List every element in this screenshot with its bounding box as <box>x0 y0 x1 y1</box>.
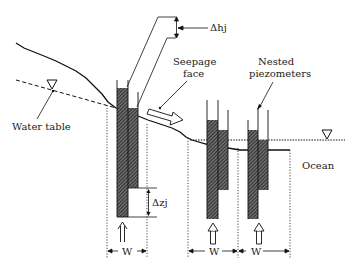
ocean-label: Ocean <box>302 160 335 171</box>
piezometer-1b-water <box>128 108 138 188</box>
width-label-3: W <box>251 246 262 257</box>
piezometer-set-3 <box>248 108 268 244</box>
water-table-label: Water table <box>12 121 71 132</box>
piezometer-3a-water <box>248 130 258 219</box>
nested-piezometers-label-line1: Nested <box>258 56 295 67</box>
piezometer-2b-water <box>218 130 228 190</box>
upward-flow-arrow-2 <box>208 223 218 244</box>
piezometer-1a-water <box>117 88 128 217</box>
width-label-1: W <box>122 246 133 257</box>
water-table-leader <box>37 91 53 119</box>
delta-zj-label: Δzj <box>152 197 168 208</box>
piezometer-3b-water <box>258 140 268 190</box>
diagram-canvas: Water table Ocean Δzj <box>0 0 350 269</box>
width-label-2: W <box>209 246 220 257</box>
seepage-face-leader <box>160 81 187 108</box>
seepage-face-label-line2: face <box>183 68 204 79</box>
water-table-line <box>16 80 116 108</box>
piezometer-set-2 <box>207 100 228 244</box>
nested-piezometers-label-line2: piezometers <box>249 68 311 79</box>
delta-hj-label: Δhj <box>210 22 227 33</box>
seepage-flow-arrow-icon <box>147 109 183 125</box>
sea-level-marker-icon <box>322 130 332 139</box>
water-table-marker-icon <box>47 80 57 89</box>
piezometer-2a-water <box>207 120 218 219</box>
upward-flow-arrow-3 <box>254 223 264 244</box>
seepage-face-label-line1: Seepage <box>173 56 216 67</box>
width-dimensions <box>108 249 289 253</box>
piezometer-set-1: Δzj <box>117 80 168 242</box>
nested-piezometers-leader <box>259 82 273 108</box>
upward-flow-arrow-1 <box>118 222 127 242</box>
